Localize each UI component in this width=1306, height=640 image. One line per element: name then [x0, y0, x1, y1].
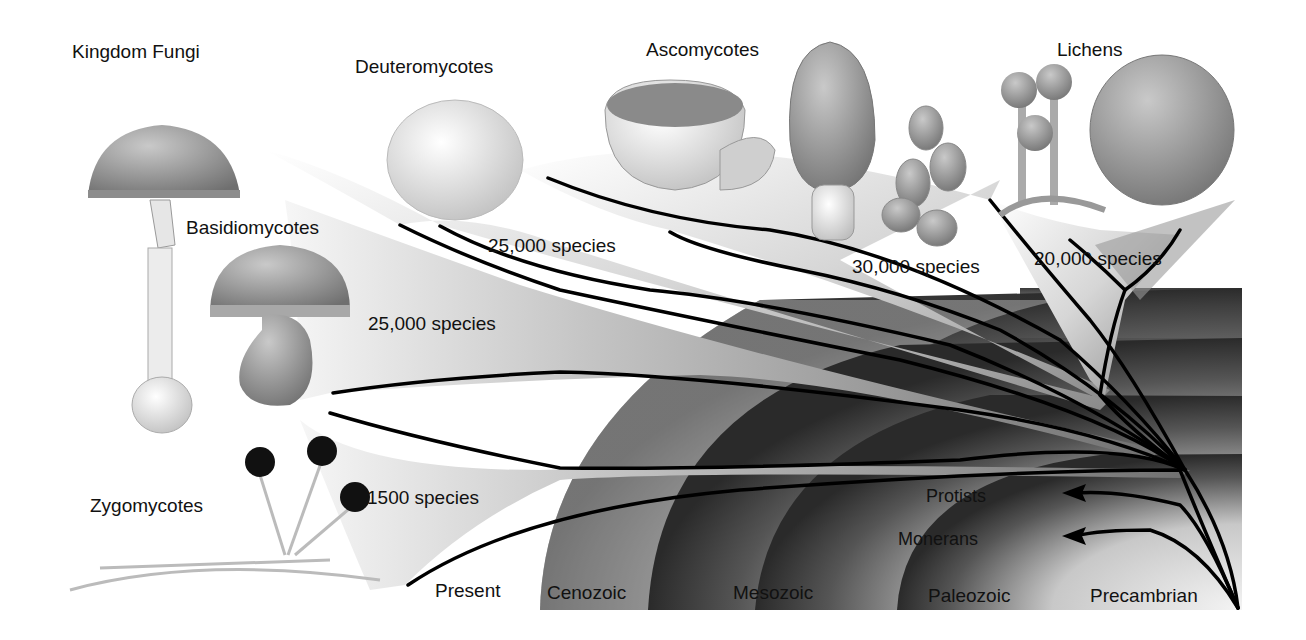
- species-count-zygomycotes: 1500 species: [367, 488, 479, 507]
- outgroup-label-protists: Protists: [926, 487, 986, 505]
- species-count-lichens: 20,000 species: [1034, 249, 1162, 268]
- era-label-precambrian: Precambrian: [1090, 586, 1198, 605]
- species-count-basidiomycotes: 25,000 species: [368, 314, 496, 333]
- cup-fungus-illustration: [605, 80, 775, 190]
- foliose-lichen-illustration: [1090, 55, 1234, 205]
- group-label-ascomycotes: Ascomycotes: [646, 40, 759, 59]
- era-label-mesozoic: Mesozoic: [733, 583, 813, 602]
- era-label-present: Present: [435, 581, 500, 600]
- group-label-lichens: Lichens: [1057, 40, 1123, 59]
- group-label-basidiomycotes: Basidiomycotes: [186, 218, 319, 237]
- fungi-phylogeny-diagram: [0, 0, 1306, 640]
- era-label-cenozoic: Cenozoic: [547, 583, 626, 602]
- yeast-cells-illustration: [882, 106, 966, 246]
- outgroup-label-monerans: Monerans: [898, 530, 978, 548]
- species-count-ascomycotes: 30,000 species: [852, 257, 980, 276]
- group-label-zygomycotes: Zygomycotes: [90, 496, 203, 515]
- era-label-paleozoic: Paleozoic: [928, 586, 1010, 605]
- diagram-title: Kingdom Fungi: [72, 42, 200, 61]
- fruticose-lichen-illustration: [1000, 64, 1105, 215]
- species-count-deuteromycotes: 25,000 species: [488, 236, 616, 255]
- deuteromycote-illustration: [387, 100, 523, 220]
- group-label-deuteromycotes: Deuteromycotes: [355, 57, 493, 76]
